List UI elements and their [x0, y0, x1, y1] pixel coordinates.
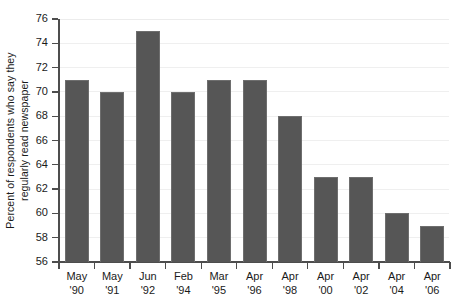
- y-axis-tick-label: 70: [18, 86, 48, 97]
- x-axis-tick: [165, 262, 166, 269]
- x-axis-label-month: May: [102, 270, 123, 282]
- x-axis-label-year: '91: [95, 284, 131, 298]
- bar: [420, 226, 444, 262]
- x-axis-label-month: Apr: [353, 270, 370, 282]
- x-axis-tick: [94, 262, 95, 269]
- y-axis-tick-label: 56: [18, 256, 48, 267]
- x-axis-tick: [449, 262, 450, 269]
- y-axis-tick-label: 72: [18, 62, 48, 73]
- bar: [243, 80, 267, 262]
- x-axis-label: Apr'02: [343, 270, 379, 297]
- y-axis-tick-label: 68: [18, 110, 48, 121]
- x-axis-label: Apr'04: [379, 270, 415, 297]
- bar: [100, 92, 124, 262]
- y-axis-tick-label: 60: [18, 207, 48, 218]
- x-axis-label-month: Feb: [174, 270, 193, 282]
- x-axis-label-year: '92: [130, 284, 166, 298]
- bar-chart: Percent of respondents who say they regu…: [0, 0, 454, 303]
- bar: [314, 177, 338, 262]
- x-axis-label: Apr'00: [308, 270, 344, 297]
- x-axis-label-year: '02: [343, 284, 379, 298]
- y-axis-title-line-1: Percent of respondents who say they: [4, 52, 16, 228]
- x-axis-label: Apr'98: [272, 270, 308, 297]
- bar: [65, 80, 89, 262]
- x-axis-tick: [414, 262, 415, 269]
- x-axis-label-month: Mar: [209, 270, 228, 282]
- bar: [278, 116, 302, 262]
- x-axis-label-month: Jun: [139, 270, 157, 282]
- y-axis-tick-label: 64: [18, 159, 48, 170]
- x-axis-tick: [307, 262, 308, 269]
- plot-area: [59, 19, 450, 262]
- bar: [171, 92, 195, 262]
- x-axis-label-year: '06: [414, 284, 450, 298]
- x-axis-label: Apr'06: [414, 270, 450, 297]
- x-axis-label-year: '96: [237, 284, 273, 298]
- y-axis-tick-label: 76: [18, 13, 48, 24]
- x-axis-label-year: '04: [379, 284, 415, 298]
- x-axis-tick: [343, 262, 344, 269]
- x-axis-label: Apr'96: [237, 270, 273, 297]
- y-axis-tick-label: 74: [18, 37, 48, 48]
- x-axis-label: May'91: [95, 270, 131, 297]
- bar: [349, 177, 373, 262]
- x-axis-label: Jun'92: [130, 270, 166, 297]
- y-axis-tick-label: 58: [18, 232, 48, 243]
- x-axis-tick: [272, 262, 273, 269]
- x-axis-label: May'90: [59, 270, 95, 297]
- x-axis-label-month: Apr: [317, 270, 334, 282]
- x-axis-label-year: '90: [59, 284, 95, 298]
- x-axis-tick: [58, 262, 59, 269]
- x-axis-tick: [129, 262, 130, 269]
- x-axis-label-month: Apr: [246, 270, 263, 282]
- bar: [136, 31, 160, 262]
- x-axis-label-month: May: [66, 270, 87, 282]
- x-axis-label-year: '94: [166, 284, 202, 298]
- bar: [207, 80, 231, 262]
- x-axis-label-month: Apr: [388, 270, 405, 282]
- x-axis-tick: [378, 262, 379, 269]
- x-axis-label-month: Apr: [424, 270, 441, 282]
- x-axis-label: Mar'95: [201, 270, 237, 297]
- x-axis-tick: [236, 262, 237, 269]
- y-axis-tick-label: 62: [18, 183, 48, 194]
- x-axis-label-year: '95: [201, 284, 237, 298]
- x-axis-label-year: '98: [272, 284, 308, 298]
- x-axis-label: Feb'94: [166, 270, 202, 297]
- x-axis-tick: [201, 262, 202, 269]
- x-axis-label-month: Apr: [281, 270, 298, 282]
- y-axis-tick-label: 66: [18, 135, 48, 146]
- x-axis-label-year: '00: [308, 284, 344, 298]
- bar: [385, 213, 409, 262]
